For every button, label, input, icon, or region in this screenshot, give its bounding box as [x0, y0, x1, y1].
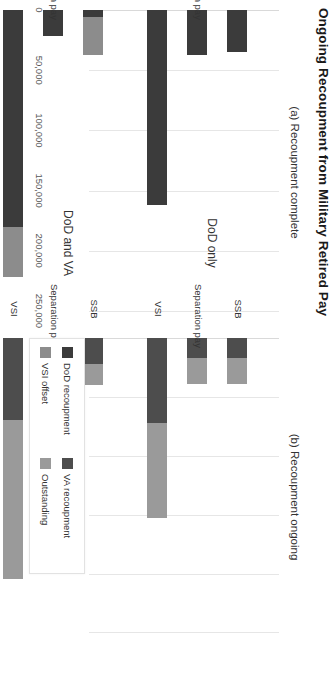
bar-segment-dod-recoupment	[227, 10, 247, 52]
gridline	[89, 130, 279, 131]
group-label-dod-only: DoD only	[205, 210, 219, 276]
outstanding-swatch-icon	[41, 458, 52, 469]
bar-segment-va-recoupment	[147, 338, 167, 423]
category-label-ssb: SSB	[89, 284, 99, 334]
gridline	[89, 311, 279, 312]
panel-a-plot: 050,000100,000150,000200,000250,000SSBSe…	[89, 10, 279, 335]
dod-recoupment-swatch-icon	[63, 347, 74, 358]
gridline	[89, 191, 279, 192]
bar-segment-dod-recoupment	[83, 10, 103, 17]
category-label-ssb: SSB	[233, 0, 243, 6]
legend-label-vsi-offset: VSI offset	[41, 363, 52, 404]
category-label-ssb: SSB	[89, 0, 99, 6]
category-label-separation-pay: Separation pay	[49, 284, 59, 334]
legend-item-dod-recoupment: DoD recoupment	[63, 347, 74, 454]
axis-tick-label: 150,000	[34, 173, 45, 207]
bar-segment-dod-recoupment	[147, 10, 167, 205]
legend-row-2: VSI offset Outstanding	[35, 347, 57, 565]
legend-item-va-recoupment: VA recoupment	[63, 458, 74, 565]
bar-segment-va-recoupment	[227, 338, 247, 358]
category-label-separation-pay: Separation pay	[49, 0, 59, 6]
bar-dod-and-va-ssb	[83, 10, 103, 55]
gridline	[89, 70, 279, 71]
bar-segment-outstanding	[227, 358, 247, 384]
legend-row-1: DoD recoupment VA recoupment	[57, 347, 79, 565]
bar-segment-outstanding	[147, 423, 167, 518]
category-label-separation-pay: Separation pay	[193, 284, 203, 334]
bar-segment-vsi-offset	[3, 227, 23, 278]
bar-dod-and-va-vsi	[3, 10, 23, 277]
gridline	[89, 397, 279, 398]
vsi-offset-swatch-icon	[41, 347, 52, 358]
chart-figure: Ongoing Recoupment from Military Retired…	[0, 0, 335, 681]
panel-b-plot: SSBSeparation payVSISSBSeparation payVSI…	[89, 338, 279, 656]
bar-dod-only-ssb	[227, 338, 247, 384]
gridline	[89, 515, 279, 516]
gridline	[89, 456, 279, 457]
gridline	[89, 632, 279, 633]
legend-item-vsi-offset: VSI offset	[41, 347, 52, 454]
legend-label-outstanding: Outstanding	[41, 474, 52, 525]
axis-zero-line	[89, 338, 279, 339]
legend-label-dod-recoupment: DoD recoupment	[63, 363, 74, 435]
panel-b-title: (b) Recoupment ongoing	[289, 338, 301, 656]
bar-dod-only-vsi	[147, 10, 167, 205]
category-label-separation-pay: Separation pay	[193, 0, 203, 6]
bar-segment-outstanding	[83, 364, 103, 385]
category-label-vsi: VSI	[153, 0, 163, 6]
gridline	[89, 574, 279, 575]
bar-dod-only-vsi	[147, 338, 167, 518]
bar-segment-va-recoupment	[3, 338, 23, 420]
bar-segment-va-recoupment	[83, 338, 103, 364]
bar-segment-outstanding	[3, 420, 23, 579]
legend-label-va-recoupment: VA recoupment	[63, 474, 74, 538]
bar-segment-dod-recoupment	[3, 10, 23, 227]
va-recoupment-swatch-icon	[63, 458, 74, 469]
rotated-figure-wrapper: Ongoing Recoupment from Military Retired…	[0, 0, 335, 681]
axis-tick-label: 50,000	[34, 56, 45, 85]
figure-title: Ongoing Recoupment from Military Retired…	[316, 8, 331, 316]
chart-legend: DoD recoupment VA recoupment VSI offset …	[29, 338, 85, 574]
category-label-vsi: VSI	[9, 0, 19, 6]
gridline	[89, 251, 279, 252]
axis-tick-label: 100,000	[34, 113, 45, 147]
bar-dod-and-va-ssb	[83, 338, 103, 385]
bar-segment-vsi-offset	[83, 17, 103, 54]
category-label-vsi: VSI	[9, 284, 19, 334]
axis-zero-line	[89, 10, 279, 11]
axis-tick-label: 250,000	[34, 294, 45, 328]
category-label-ssb: SSB	[233, 284, 243, 334]
panel-a-title: (a) Recoupment complete	[289, 10, 301, 335]
bar-segment-outstanding	[187, 358, 207, 384]
legend-item-outstanding: Outstanding	[41, 458, 52, 565]
bar-dod-and-va-vsi	[3, 338, 23, 579]
group-label-dod-and-va: DoD and VA	[61, 210, 75, 276]
axis-tick-label: 200,000	[34, 234, 45, 268]
bar-dod-only-ssb	[227, 10, 247, 52]
category-label-vsi: VSI	[153, 284, 163, 334]
